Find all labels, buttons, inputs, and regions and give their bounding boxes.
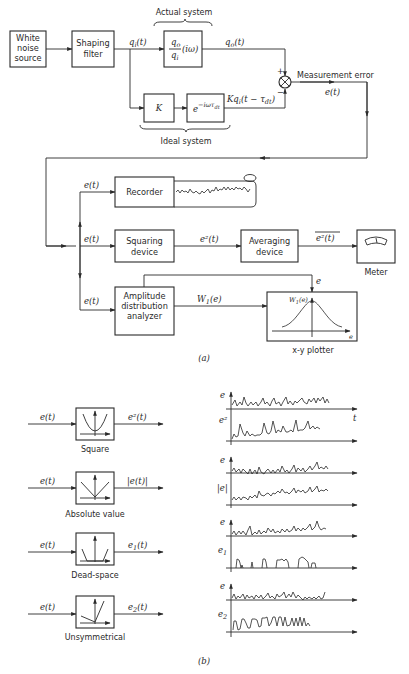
plot-x-label: e [349, 333, 353, 341]
wave-label-e1: e1 [218, 545, 227, 557]
waveform-panels: e t e² e |e| e e1 e e2 [217, 390, 357, 637]
dead-caption: Dead-space [71, 571, 118, 580]
minus-sign: − [277, 87, 284, 97]
nonlinearity-absolute-value: e(t) |e(t)| Absolute value [28, 472, 163, 519]
recorder-paper [174, 181, 256, 207]
recorder-label: Recorder [126, 187, 163, 197]
plus-sign: + [277, 66, 284, 76]
white-noise-label-3: source [14, 53, 41, 63]
shaping-label-1: Shaping [76, 38, 109, 48]
xy-plotter-block: W1(e) e [267, 292, 357, 341]
wave-label-e2-sub: e2 [218, 609, 227, 621]
square-output-label: e²(t) [128, 412, 147, 422]
unsym-output-label: e2(t) [128, 602, 147, 614]
gain-label: K [155, 103, 163, 113]
w1e-label: W1(e) [197, 294, 222, 306]
recorder-input-label: e(t) [84, 180, 99, 190]
measurement-error-label: Measurement error [297, 71, 375, 80]
meter-label: Meter [364, 268, 388, 277]
actual-system-label: Actual system [156, 8, 213, 17]
white-noise-source-block: White noise source [10, 31, 46, 67]
qi-label: qi(t) [129, 37, 147, 49]
dead-input-label: e(t) [40, 540, 55, 550]
abs-output-label: |e(t)| [127, 476, 148, 487]
wave-label-t: t [353, 413, 357, 423]
white-noise-label-1: White [16, 33, 40, 43]
e2t-label: e²(t) [200, 234, 219, 244]
wave-label-e-3: e [220, 517, 225, 527]
averaging-label-2: device [256, 247, 283, 257]
arrow-qo-to-summer [202, 49, 285, 76]
ideal-system-brace [140, 125, 230, 132]
squaring-label-2: device [131, 247, 158, 257]
unsym-input-label: e(t) [40, 602, 55, 612]
white-noise-label-2: noise [17, 43, 39, 53]
shaping-filter-block: Shaping filter [72, 31, 114, 67]
caption-a: (a) [198, 353, 210, 363]
nonlinearity-unsymmetrical: e(t) e2(t) Unsymmetrical [28, 596, 163, 642]
analyzer-label-3: analyzer [127, 311, 163, 321]
unsym-caption: Unsymmetrical [65, 633, 126, 642]
tf-argument: (iω) [182, 44, 198, 54]
qo-label: qo(t) [225, 37, 244, 49]
wave-label-e2: e² [219, 415, 228, 425]
abs-input-label: e(t) [40, 476, 55, 486]
analyzer-input-label: e(t) [84, 296, 99, 306]
plotter-e-input: e [316, 276, 321, 286]
shaping-label-2: filter [83, 49, 103, 59]
arrow-to-gain [130, 49, 144, 108]
error-label: e(t) [325, 87, 340, 97]
delay-block: e−iωτdt [187, 94, 224, 122]
paper-roll-icon [244, 175, 256, 182]
wave-label-e-2: e [220, 455, 225, 465]
meter-block [357, 230, 395, 263]
actual-system-block: qo qi (iω) [164, 31, 202, 67]
squaring-label-1: Squaring [126, 236, 163, 246]
recorder-block: Recorder [115, 177, 174, 207]
averaging-device-block: Averaging device [241, 230, 298, 262]
gain-block: K [144, 94, 174, 122]
wave-label-e-4: e [220, 581, 225, 591]
squaring-device-block: Squaring device [115, 230, 174, 262]
nonlinearity-dead-space: e(t) e1(t) Dead-space [28, 533, 163, 580]
kqi-label: Kqi(t − τdt) [226, 94, 275, 106]
dead-output-label: e1(t) [128, 540, 147, 552]
abs-caption: Absolute value [65, 510, 124, 519]
square-caption: Square [81, 445, 109, 454]
analyzer-label-1: Amplitude [124, 291, 166, 301]
analyzer-label-2: distribution [121, 301, 168, 311]
nonlinearity-square: e(t) e²(t) Square [28, 408, 163, 454]
square-input-label: e(t) [40, 412, 55, 422]
squaring-input-label: e(t) [84, 234, 99, 244]
actual-system-brace [154, 19, 212, 26]
amplitude-analyzer-block: Amplitude distribution analyzer [115, 287, 174, 335]
wave-label-e-1: e [220, 390, 225, 400]
block-diagram: White noise source Shaping filter qi(t) … [0, 0, 409, 674]
wave-label-abs-e: |e| [217, 483, 228, 494]
plot-y-label: W1(e) [289, 296, 308, 305]
averaging-label-1: Averaging [249, 236, 290, 246]
caption-b: (b) [198, 656, 210, 666]
mean-square-label: e²(t) [316, 233, 335, 243]
plotter-label: x-y plotter [292, 346, 334, 355]
ideal-system-label: Ideal system [161, 137, 212, 146]
recorder-trace [176, 187, 250, 194]
